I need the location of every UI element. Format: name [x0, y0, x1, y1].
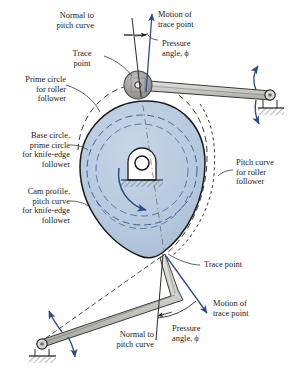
leader-cam-profile	[70, 201, 88, 206]
leader-trace-point-top	[104, 56, 132, 76]
label-base-circle-knife-edge: Base circle, prime circle for knife-edge…	[0, 131, 70, 169]
leader-prime-circle	[66, 85, 100, 112]
leader-pitch-curve-roller	[218, 170, 233, 176]
label-motion-of-trace-point-top: Motion of trace point	[158, 10, 238, 29]
oscillating-roller-follower-arm	[137, 80, 271, 100]
leader-trace-point-bottom	[168, 254, 200, 265]
label-pressure-angle-top: Pressure angle, ϕ	[162, 39, 234, 58]
label-trace-point-top: Trace point	[60, 49, 104, 68]
label-normal-to-pitch-curve-bottom: Normal to pitch curve	[96, 330, 154, 349]
label-pitch-curve-roller-follower: Pitch curve for roller follower	[236, 158, 288, 187]
cam-follower-diagram: Normal to pitch curve Motion of trace po…	[0, 0, 288, 369]
label-prime-circle-roller-follower: Prime circle for roller follower	[2, 75, 66, 104]
label-pressure-angle-bottom: Pressure angle, ϕ	[172, 324, 232, 343]
pressure-angle-arc-top	[124, 34, 148, 36]
label-trace-point-bottom: Trace point	[204, 260, 280, 270]
normal-to-pitch-curve-line-bottom	[156, 254, 163, 340]
label-normal-to-pitch-curve-top: Normal to pitch curve	[24, 11, 94, 30]
label-cam-profile-knife-edge: Cam profile, pitch curve for knife-edge …	[0, 187, 70, 225]
label-motion-of-trace-point-bottom: Motion of trace point	[213, 299, 287, 318]
